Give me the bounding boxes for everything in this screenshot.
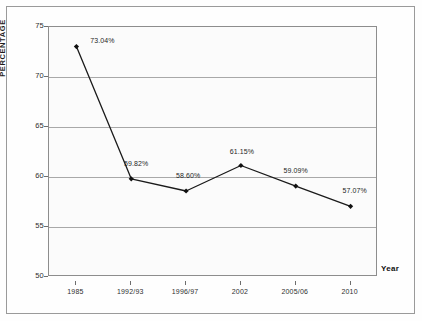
x-axis-tick-label: 1992/93 [117, 288, 144, 295]
y-axis-tick-label: 65 [18, 121, 44, 130]
data-point-marker [293, 184, 298, 189]
plot-area: 73.04%59.82%58.60%61.15%59.09%57.07% [48, 26, 377, 276]
data-point-marker [183, 188, 188, 193]
x-axis-tick-label: 2010 [341, 288, 357, 295]
y-axis-tick-label: 70 [18, 71, 44, 80]
data-point-label: 73.04% [90, 36, 114, 43]
data-point-label: 57.07% [342, 187, 366, 194]
x-axis-tick-mark [75, 281, 76, 285]
x-axis-tick-label: 2005/06 [281, 288, 308, 295]
x-axis-tick-mark [350, 281, 351, 285]
y-axis-tick-label: 75 [18, 21, 44, 30]
data-point-marker [129, 176, 134, 181]
y-axis-tick-label: 60 [18, 171, 44, 180]
data-point-marker [74, 44, 79, 49]
x-axis-tick-label: 1996/97 [172, 288, 199, 295]
data-point-marker [238, 163, 243, 168]
y-axis-tick-labels: 505560657075 [18, 26, 44, 276]
data-point-label: 58.60% [176, 172, 200, 179]
data-point-label: 59.09% [284, 167, 308, 174]
x-axis-title: Year [381, 264, 399, 273]
data-point-marker [348, 204, 353, 209]
x-axis-tick-labels: 19851992/931996/9720022005/062010 [48, 281, 377, 299]
y-axis-tick-label: 55 [18, 221, 44, 230]
series-polyline [76, 47, 350, 207]
x-axis-tick-mark [130, 281, 131, 285]
series-markers [74, 44, 353, 209]
data-point-label: 61.15% [230, 147, 254, 154]
y-axis-tick-label: 50 [18, 271, 44, 280]
chart-screenshot: PERCENTAGE 505560657075 73.04%59.82%58.6… [0, 0, 422, 321]
x-axis-tick-mark [295, 281, 296, 285]
y-axis-tick-mark [44, 276, 48, 277]
x-axis-tick-mark [185, 281, 186, 285]
line-series [49, 27, 378, 277]
x-axis-tick-label: 1985 [67, 288, 83, 295]
y-axis-title: PERCENTAGE [0, 0, 7, 108]
data-point-label: 59.82% [124, 159, 148, 166]
x-axis-tick-mark [240, 281, 241, 285]
x-axis-tick-label: 2002 [232, 288, 248, 295]
